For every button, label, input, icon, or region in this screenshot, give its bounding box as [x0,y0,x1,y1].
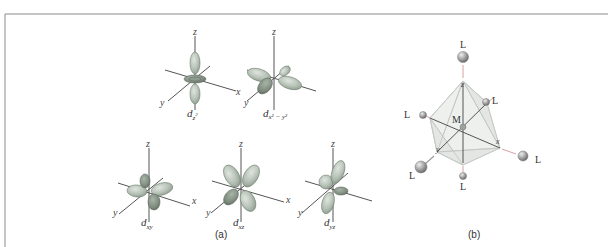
z-axis-label: z [145,138,150,149]
y-axis-label: y [205,207,211,218]
y-axis-label: y [297,207,303,218]
orbital-label-dyz: dyz [324,216,336,231]
ligand-right: L [518,151,541,165]
y-axis-label: y [159,97,165,108]
y-axis-label: y [243,97,249,108]
orbital-dxy: z x y dxy [112,138,197,231]
svg-text:L: L [460,181,466,192]
figure-frame [5,14,608,247]
panel-a-label: (a) [215,229,227,240]
y-axis-label: y [112,207,118,218]
x-axis-label: x [285,194,291,205]
svg-text:L: L [409,170,415,181]
orbital-dz2: z x y dz2 [159,26,241,122]
z-axis-label: z [330,138,335,149]
z-axis-label: z [192,26,197,37]
y-axis [168,66,210,101]
orbital-dx2-y2: z y dx² − y² [243,26,316,121]
figure-d-orbitals-octahedral: z x y dz2 z y dx² − y² z x y dxy [0,0,608,247]
orbital-dyz: z y dyz [297,138,372,231]
octahedral-complex: M z x y L L L L L [404,39,541,192]
x-axis-label: x [191,195,197,206]
z-axis-label: z [271,26,276,37]
metal-label: M [452,114,461,125]
svg-text:L: L [535,154,541,165]
x-axis-label: x [495,137,500,146]
ligand-bottom: L [460,173,467,193]
orbital-label-dxz: dxz [233,216,245,231]
ligand-left: L [404,109,427,120]
svg-text:L: L [460,39,466,50]
z-axis-label: z [238,138,243,149]
x-axis-label: x [235,86,241,97]
y-axis-label: y [435,145,440,154]
orbital-label-dxy: dxy [141,216,154,231]
orbital-label-dz2: dz2 [187,107,198,122]
svg-text:L: L [404,109,410,120]
panel-b-label: (b) [468,229,480,240]
ligand-front-left: L [409,161,427,181]
orbital-label-dx2-y2: dx² − y² [263,107,288,121]
ligand-top: L [458,39,469,63]
orbital-dxz: z x y dxz [205,138,291,231]
svg-text:L: L [492,95,498,106]
